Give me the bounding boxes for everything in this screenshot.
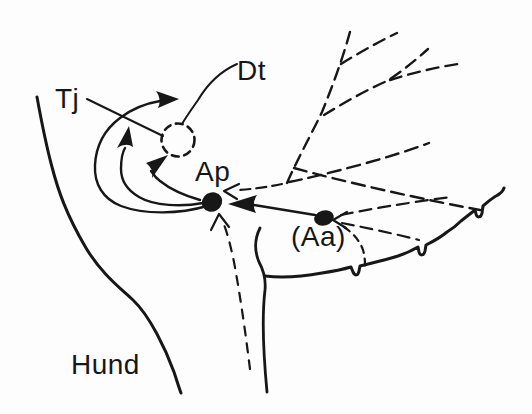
dashed-curve-aa-to-coast xyxy=(344,227,365,267)
dt-pointer-curve xyxy=(182,64,237,124)
ap-site-dot xyxy=(198,189,226,216)
label-ap: Ap xyxy=(195,156,230,187)
dashed-line-upper-right xyxy=(289,143,429,182)
dashed-arrow-from-below xyxy=(223,222,250,369)
dashed-branch-middle xyxy=(324,49,428,115)
outer-curved-arrowhead-icon xyxy=(156,91,179,108)
river-line xyxy=(256,228,267,392)
dashed-circle-dt-site xyxy=(162,124,195,157)
dashed-line-to-ap xyxy=(240,184,282,190)
solid-arrowhead-aa-to-ap-icon xyxy=(228,195,257,213)
dashed-line-aa-upper xyxy=(341,197,452,215)
label-tj: Tj xyxy=(55,83,79,114)
tj-pointer-line xyxy=(87,99,163,136)
label-hund: Hund xyxy=(71,349,140,380)
label-aa: (Aa) xyxy=(291,221,346,252)
figure-canvas: Dt Tj Ap (Aa) Hund xyxy=(0,0,532,414)
dashed-line-lower-right xyxy=(294,168,480,210)
solid-arrow-aa-to-ap-shaft xyxy=(254,205,315,215)
dashed-line-aa-lower xyxy=(342,223,419,240)
inner-curved-arrowhead-icon xyxy=(146,155,168,178)
open-arrowhead-ap-bottom-icon xyxy=(211,214,229,230)
middle-curved-arrowhead-icon xyxy=(117,126,133,148)
label-dt: Dt xyxy=(237,55,266,86)
schematic-map: Dt Tj Ap (Aa) Hund xyxy=(0,0,532,414)
inner-curved-arrow xyxy=(151,171,200,200)
